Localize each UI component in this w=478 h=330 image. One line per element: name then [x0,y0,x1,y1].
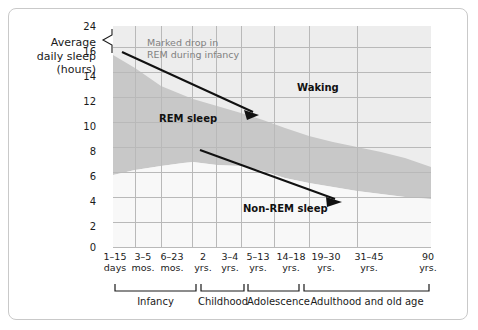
x-tick-1: 3–5 mos. [129,252,157,273]
bracket-childhood [201,284,244,291]
x-tick-0-line1: 1–15 [100,252,130,263]
stage-label-adulthood: Adulthood and old age [304,296,430,307]
x-tick-6: 14–18 yrs. [274,252,308,273]
bracket-adulthood [304,284,429,291]
y-tick-2: 2 [70,222,96,232]
x-tick-0-line2: days [100,263,130,274]
x-tick-9-line2: yrs. [415,263,441,274]
sleep-stages-figure: Average daily sleep (hours) 24 16 14 12 … [0,0,478,330]
y-tick-12: 12 [70,97,96,107]
x-tick-0: 1–15 days [100,252,130,273]
x-tick-8-line2: yrs. [352,263,386,274]
y-tick-8: 8 [70,147,96,157]
x-tick-9-line1: 90 [415,252,441,263]
x-tick-8-line1: 31–45 [352,252,386,263]
x-tick-9: 90 yrs. [415,252,441,273]
x-tick-7: 19–30 yrs. [309,252,343,273]
x-tick-2-line1: 6–23 [156,252,188,263]
x-tick-1-line1: 3–5 [129,252,157,263]
stage-brackets [0,282,478,296]
bracket-adolescence [248,284,299,291]
x-tick-5-line1: 5–13 [243,252,273,263]
x-tick-8: 31–45 yrs. [352,252,386,273]
rem-drop-note: Marked drop in REM during infancy [147,37,239,60]
rem-sleep-label: REM sleep [159,113,217,124]
y-tick-4: 4 [70,197,96,207]
y-tick-14: 14 [70,72,96,82]
x-tick-5-line2: yrs. [243,263,273,274]
stage-label-adolescence: Adolescence [247,296,301,307]
x-tick-1-line2: mos. [129,263,157,274]
x-tick-4-line2: yrs. [216,263,244,274]
waking-label: Waking [297,82,339,93]
x-tick-4: 3–4 yrs. [216,252,244,273]
x-tick-3: 2 yrs. [190,252,216,273]
stage-label-infancy: Infancy [115,296,196,307]
x-tick-3-line2: yrs. [190,263,216,274]
x-tick-3-line1: 2 [190,252,216,263]
non-rem-sleep-label: Non-REM sleep [243,203,328,214]
bracket-infancy [115,284,196,291]
x-tick-5: 5–13 yrs. [243,252,273,273]
x-tick-2: 6–23 mos. [156,252,188,273]
x-tick-6-line1: 14–18 [274,252,308,263]
x-tick-4-line1: 3–4 [216,252,244,263]
stage-label-childhood: Childhood [196,296,250,307]
y-tick-0: 0 [70,243,96,253]
x-tick-7-line1: 19–30 [309,252,343,263]
x-tick-2-line2: mos. [156,263,188,274]
y-tick-10: 10 [70,122,96,132]
y-tick-24: 24 [70,22,96,32]
x-tick-7-line2: yrs. [309,263,343,274]
y-tick-16: 16 [70,47,96,57]
x-tick-6-line2: yrs. [274,263,308,274]
y-tick-6: 6 [70,172,96,182]
